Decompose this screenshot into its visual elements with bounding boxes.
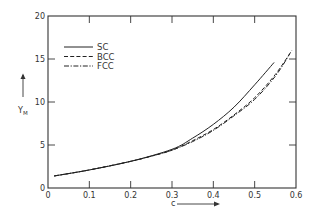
x-tick-label: 0.1 (83, 191, 96, 200)
y-axis-label-sub: M (23, 110, 28, 116)
x-tick-label: 0.6 (290, 191, 303, 200)
legend-label-bcc: BCC (97, 52, 115, 62)
series-fcc-line (54, 54, 290, 176)
x-axis-ticks: 00.10.20.30.40.50.6 (45, 16, 302, 200)
chart: 00.10.20.30.40.50.6 05101520 SCBCCFCC YM… (0, 0, 319, 223)
x-tick-label: 0.5 (248, 191, 261, 200)
y-axis-arrowhead-icon (21, 74, 26, 80)
y-tick-label: 0 (40, 184, 45, 193)
legend: SCBCCFCC (64, 42, 115, 71)
x-axis-arrowhead-icon (214, 202, 220, 207)
x-tick-label: 0.4 (207, 191, 220, 200)
svg-text:YM: YM (17, 106, 28, 116)
y-tick-label: 15 (35, 55, 45, 64)
series-sc-line (54, 62, 274, 176)
x-axis-label: c (171, 199, 220, 208)
x-axis-label-text: c (171, 199, 175, 208)
series-bcc-line (54, 50, 292, 176)
series-lines (54, 50, 292, 176)
y-tick-label: 10 (35, 98, 45, 107)
legend-label-sc: SC (97, 42, 108, 52)
plot-frame (48, 16, 296, 188)
y-axis-ticks: 05101520 (35, 12, 296, 193)
plot-border (48, 16, 296, 188)
legend-label-fcc: FCC (97, 61, 114, 71)
x-tick-label: 0 (45, 191, 50, 200)
y-tick-label: 5 (40, 141, 45, 150)
y-axis-label: YM (17, 74, 28, 117)
x-tick-label: 0.2 (124, 191, 137, 200)
y-tick-label: 20 (35, 12, 45, 21)
